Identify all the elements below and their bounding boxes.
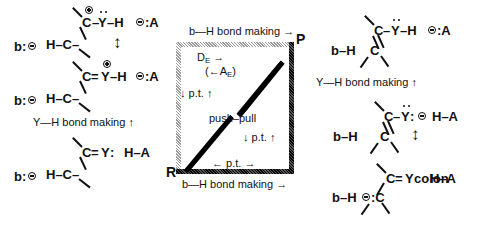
minus-charge-circle-rt-icon xyxy=(428,26,436,34)
base-bh-rb: b–H xyxy=(332,191,357,204)
base-minus-charge-icon-2 xyxy=(28,96,36,104)
minus-charge-circle-icon-2 xyxy=(136,72,144,80)
minus-charge-circle-icon xyxy=(136,18,144,26)
atom-carbon-rm-lower: C xyxy=(380,130,389,143)
diagram-root: C – Y –H :A b: H–C– ↕ C = xyxy=(0,0,483,226)
square-edge-right xyxy=(289,42,294,174)
square-inner-bottom-pt-label: ← p.t. → xyxy=(212,157,255,169)
inner-label-ae: (←AE) xyxy=(205,65,236,79)
acid-ha-rb: H–A xyxy=(430,172,456,185)
de-subscript: E xyxy=(205,56,210,65)
diagonal-wedge-upper xyxy=(234,60,288,118)
square-left-pt-label: ↓ p.t. ↑ xyxy=(180,87,212,99)
y-h-bond-label-second: –H xyxy=(110,70,127,83)
base-b-2: b: xyxy=(14,94,26,107)
atom-y-third: Y xyxy=(101,146,110,159)
bond-rb-lower-left xyxy=(361,203,370,215)
minus-charge-circle-rm-icon xyxy=(418,112,426,120)
carbon-chain-left: H–C– xyxy=(46,38,79,51)
y-lone-pair-colon: : xyxy=(110,146,114,159)
bond-lower-c-down xyxy=(78,48,90,58)
ae-close: ) xyxy=(232,65,236,77)
bond-upper-c-left xyxy=(72,7,83,18)
atom-y-upper: Y xyxy=(98,16,107,29)
carbon-chain-left-2: H–C– xyxy=(46,92,79,105)
atom-y-rt: Y xyxy=(391,24,400,37)
square-edge-bottom xyxy=(176,169,294,174)
corner-label-p: P xyxy=(296,31,305,47)
atom-carbon-third: C xyxy=(82,146,91,159)
bond-rt-c-y: – xyxy=(383,24,390,37)
base-b: b: xyxy=(14,40,26,53)
base-bh-rt: b–H xyxy=(331,44,356,57)
caption-left-yh-bond-making: Y—H bond making ↑ xyxy=(33,117,134,128)
y-h-bond-label: –H xyxy=(107,16,124,29)
square-bottom-edge-label: b—H bond making → xyxy=(182,178,287,190)
atom-y-rb: Y xyxy=(405,172,414,185)
de-arrow: → xyxy=(213,51,224,63)
base-bh-rm: b–H xyxy=(333,130,358,143)
bond-lower-c-down-3 xyxy=(78,178,90,188)
atom-carbon-rb-upper: C xyxy=(386,172,395,185)
y-colon-rm: : xyxy=(410,110,414,123)
caption-right-yh-bond-making: Y—H bond making ↑ xyxy=(316,77,417,88)
atom-y-second: Y xyxy=(101,70,110,83)
de-text: D xyxy=(197,51,205,63)
square-edge-top xyxy=(176,42,294,47)
bond-lower-c-down-2 xyxy=(78,102,90,112)
bond-rm-lower-left xyxy=(370,142,379,154)
reaction-coordinate-square xyxy=(176,42,294,174)
bond-c-y-double: = xyxy=(91,70,99,83)
bond-c-y-double-3: = xyxy=(91,146,99,159)
bond-rb-lower-right xyxy=(381,202,390,214)
resonance-arrow-left-top: ↕ xyxy=(113,34,122,51)
atom-carbon-upper: C xyxy=(82,16,91,29)
atom-y-rm: Y xyxy=(401,110,410,123)
base-minus-charge-icon xyxy=(28,42,36,50)
base-minus-charge-icon-3 xyxy=(28,172,36,180)
bond-rb-c-y-double: = xyxy=(395,172,403,185)
square-center-push-pull-label: push–pull xyxy=(209,112,256,124)
atom-carbon-second: C xyxy=(82,70,91,83)
acid-ha-rm: H–A xyxy=(432,110,458,123)
bond-rm-c-y: – xyxy=(393,110,400,123)
counter-ion-a-rt: :A xyxy=(437,24,451,37)
plus-charge-circle-y-icon xyxy=(103,60,111,68)
bond-rt-lower-left xyxy=(360,56,369,68)
carbanion-minus-charge-icon xyxy=(362,193,370,201)
counter-ion-a-2: :A xyxy=(145,70,159,83)
inner-label-de: DE → xyxy=(197,51,224,65)
corner-label-r: R xyxy=(166,164,176,180)
square-right-pt-label: ↓ p.t. ↑ xyxy=(243,131,275,143)
plus-charge-circle-icon xyxy=(85,6,93,14)
ae-text: (←A xyxy=(205,65,227,77)
bond-rt-lower-right xyxy=(380,55,389,67)
square-edge-left xyxy=(176,42,181,174)
counter-ion-a: :A xyxy=(145,16,159,29)
square-top-edge-label: b—H bond making → xyxy=(189,25,294,37)
carbon-chain-left-3: H–C– xyxy=(46,168,79,181)
base-b-3: b: xyxy=(14,170,26,183)
y-h-bond-rt: –H xyxy=(400,24,417,37)
atom-carbon-rt-lower: C xyxy=(370,44,379,57)
resonance-arrow-right-mid: ↕ xyxy=(411,126,420,143)
acid-h-a: H–A xyxy=(124,146,150,159)
bond-rm-lower-right xyxy=(390,141,399,153)
